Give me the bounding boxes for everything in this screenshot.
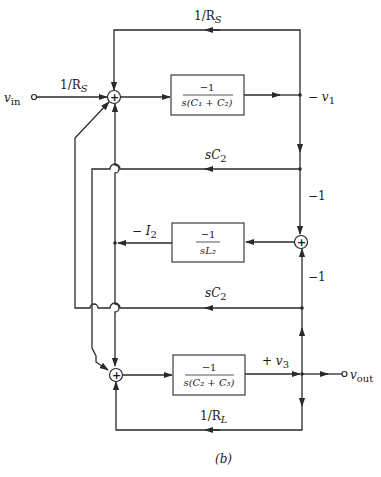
- block-3-numerator: −1: [202, 362, 217, 373]
- input-terminal: [32, 95, 37, 100]
- sc2-lower-branch: [75, 102, 207, 308]
- block-2-numerator: −1: [201, 229, 216, 240]
- i2-to-sum1: [115, 104, 119, 243]
- input-label: vin: [4, 91, 21, 107]
- sc2-lower-gain-label: sC2: [205, 286, 227, 302]
- sc2-upper-branch: [92, 164, 207, 370]
- output-terminal: [342, 372, 347, 377]
- block-1-numerator: −1: [200, 82, 215, 93]
- signal-flow-diagram: vin 1/RS + −1 s(C₁ + C₂) − v1 1/RS −1 sC…: [0, 0, 381, 477]
- node-v1-label: − v1: [308, 90, 335, 106]
- neg-one-upper-label: −1: [308, 189, 326, 203]
- node-v3-label: + v3: [262, 354, 289, 370]
- sc2-upper-gain-label: sC2: [205, 148, 227, 164]
- input-gain-label: 1/RS: [60, 78, 88, 94]
- block-2-denominator: sL₂: [200, 245, 216, 256]
- node-i2-label: − I2: [132, 224, 157, 240]
- neg-one-lower-label: −1: [308, 270, 326, 284]
- top-feedback-gain-label: 1/RS: [194, 9, 222, 25]
- load-feedback-gain-label: 1/RL: [200, 409, 228, 425]
- figure-caption: (b): [215, 452, 232, 466]
- plus-symbol-1: +: [110, 91, 119, 104]
- plus-symbol-3: +: [112, 369, 121, 382]
- block-3-denominator: s(C₂ + C₃): [184, 377, 235, 388]
- output-label: vout: [350, 368, 373, 384]
- plus-symbol-2: +: [297, 236, 306, 249]
- block-1-denominator: s(C₁ + C₂): [182, 97, 233, 108]
